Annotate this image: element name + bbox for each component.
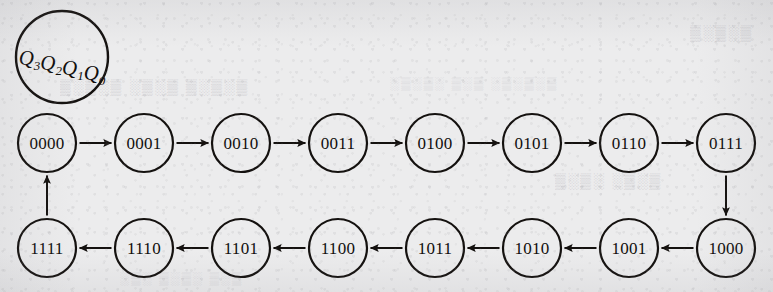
state-node-0011: 0011: [309, 114, 367, 172]
state-node-1000: 1000: [697, 219, 755, 277]
bleed-through-mark: ░▒░▒░ ▒░▒ ░▒░▒░▒: [390, 76, 558, 92]
state-label: 1100: [321, 239, 356, 258]
legend-bit-symbol: Q: [19, 46, 34, 70]
state-label: 0101: [514, 134, 549, 153]
state-label: 0111: [709, 134, 743, 153]
bleed-through-mark: ░▒░ ▒░▒░ ▒░▒: [120, 271, 243, 287]
state-node-1001: 1001: [600, 219, 658, 277]
state-label: 1011: [418, 239, 453, 258]
legend-bit-subscript: 0: [99, 73, 106, 88]
diagram-canvas: ▒░▒░▒ ░▒░▒ ▒░▒░▒░▒░▒░ ▒░▒ ░▒░▒░▒▒░▒░ ░▒░…: [0, 0, 773, 292]
state-label: 0110: [612, 134, 647, 153]
bleed-through-mark: ▒░▒░ ░▒░▒: [555, 172, 662, 190]
state-node-1101: 1101: [212, 219, 270, 277]
state-node-1100: 1100: [309, 219, 367, 277]
state-label: 0001: [126, 134, 161, 153]
state-label: 0000: [29, 134, 64, 153]
bleed-through-mark: ▒░▒░▒: [690, 24, 753, 42]
state-node-0000: 0000: [18, 114, 76, 172]
legend-bit-symbol: Q: [62, 56, 77, 80]
state-label: 1000: [708, 239, 743, 258]
state-node-0111: 0111: [697, 114, 755, 172]
state-label: 1101: [224, 239, 259, 258]
state-node-0100: 0100: [406, 114, 464, 172]
state-label: 0010: [223, 134, 258, 153]
legend-bit-symbol: Q: [40, 51, 55, 75]
state-node-0001: 0001: [115, 114, 173, 172]
transition-edge-layer: [47, 143, 726, 248]
state-node-0010: 0010: [212, 114, 270, 172]
state-node-layer: 0000000100100011010001010110011110001001…: [18, 114, 755, 277]
state-label: 1010: [514, 239, 549, 258]
state-node-1110: 1110: [115, 219, 173, 277]
state-label: 1110: [127, 239, 161, 258]
state-node-0101: 0101: [503, 114, 561, 172]
state-diagram-figure: ▒░▒░▒ ░▒░▒ ▒░▒░▒░▒░▒░ ▒░▒ ░▒░▒░▒▒░▒░ ░▒░…: [0, 0, 773, 292]
state-label: 0011: [321, 134, 356, 153]
state-node-0110: 0110: [600, 114, 658, 172]
state-node-1011: 1011: [406, 219, 464, 277]
state-label: 1001: [611, 239, 646, 258]
state-label: 1111: [30, 239, 63, 258]
state-label: 0100: [417, 134, 452, 153]
state-node-1111: 1111: [18, 219, 76, 277]
legend-bit-symbol: Q: [84, 61, 99, 85]
state-node-1010: 1010: [503, 219, 561, 277]
